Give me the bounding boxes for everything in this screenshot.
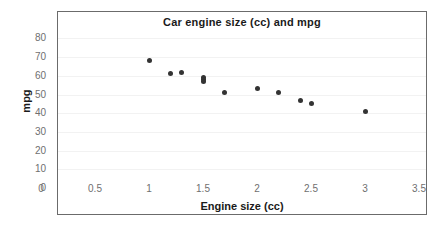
y-axis-title: mpg [20, 71, 32, 131]
y-axis-tick-label: 10 [16, 163, 46, 174]
y-axis-tick-label: 0 [16, 182, 46, 193]
y-axis-tick-label: 20 [16, 145, 46, 156]
x-axis-tick-label: 0 [21, 183, 61, 194]
chart-plot-frame [57, 11, 427, 215]
y-axis-tick-label: 70 [16, 51, 46, 62]
chart-title: Car engine size (cc) and mpg [57, 16, 427, 28]
y-axis-tick-label: 80 [16, 32, 46, 43]
x-axis-title: Engine size (cc) [57, 200, 427, 212]
